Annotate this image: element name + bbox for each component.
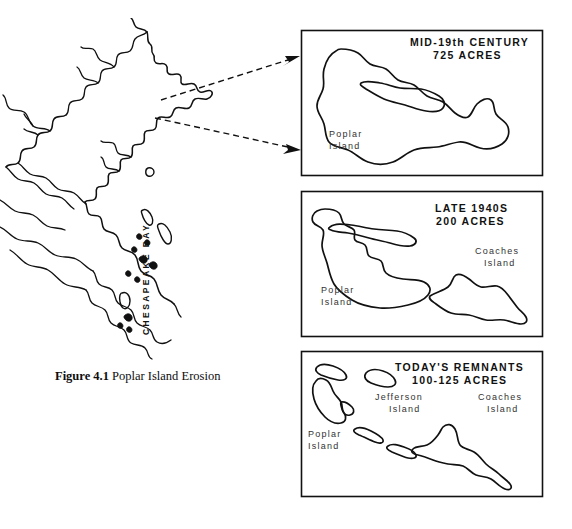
panel-3-jefferson-island-shape <box>365 370 396 387</box>
panel-1-frame <box>302 31 543 176</box>
figure-caption-label: Figure 4.1 <box>55 369 109 383</box>
callout-arrow-line-top <box>161 60 288 100</box>
choptank-river <box>77 67 98 83</box>
patuxent-river <box>24 129 38 135</box>
western-shore-coastline <box>131 18 147 32</box>
panel-3-label-poplar-line2: Island <box>308 441 340 451</box>
chesapeake-bay-label-group: CHESAPEAKE BAY <box>141 223 151 335</box>
southern-western-shore <box>93 271 171 343</box>
western-shore-main <box>6 115 66 167</box>
panel-3-poplar-island-shape <box>313 379 346 424</box>
panel-todays-remnants: TODAY'S REMNANTS 100-125 ACRES Poplar Is… <box>300 350 544 498</box>
callout-arrow-head-bottom <box>283 144 301 154</box>
panel-3-remnant-mid-sliver-1 <box>354 428 383 444</box>
panel-2-label-coaches-line1: Coaches <box>475 246 519 256</box>
panel-late-1940s: LATE 1940S 200 ACRES Poplar Island Coach… <box>300 190 544 338</box>
islet-dot-3 <box>132 247 138 253</box>
islet-dot-7 <box>135 277 141 283</box>
islet-dot-6 <box>126 271 132 277</box>
upper-eastern-tributaries <box>66 32 147 115</box>
panel-1-label-poplar-line2: Island <box>329 141 361 151</box>
callout-arrow-line-bottom <box>155 118 288 147</box>
potomac-branch <box>24 114 33 126</box>
panel-3-label-coaches-line2: Island <box>487 404 519 414</box>
james-south-bank <box>10 250 86 290</box>
lower-eastern-shore <box>85 202 174 304</box>
panel-mid-19th-century: MID-19th CENTURY 725 ACRES Poplar Island <box>300 29 544 177</box>
panel-3-label-jefferson-line1: Jefferson <box>375 392 423 402</box>
figure-caption-text: Poplar Island Erosion <box>112 369 220 383</box>
panel-3-label-poplar-line1: Poplar <box>308 429 342 439</box>
islet-dot-9 <box>118 323 124 329</box>
rappahannock-north-bank <box>6 167 74 209</box>
panel-3-poplar-east-lobe <box>341 402 354 415</box>
panel-3-title-line1: TODAY'S REMNANTS <box>395 361 524 373</box>
panel-3-label-jefferson-line2: Island <box>389 404 421 414</box>
panel-1-title-line1: MID-19th CENTURY <box>410 36 529 48</box>
panel-3-title-line2: 100-125 ACRES <box>412 374 507 386</box>
chester-river <box>81 47 114 67</box>
figure-caption: Figure 4.1 Poplar Island Erosion <box>55 367 265 386</box>
panel-1-label-poplar-line1: Poplar <box>329 129 363 139</box>
panel-2-label-coaches-line2: Island <box>484 258 516 268</box>
york-river <box>0 200 65 230</box>
panel-2-label-poplar-line2: Island <box>321 297 353 307</box>
rappahannock-river <box>18 163 86 204</box>
panel-2-label-poplar-line1: Poplar <box>321 285 355 295</box>
tangier-island <box>158 223 172 244</box>
eastern-bay-inlets <box>101 141 131 157</box>
panel-3-coaches-island-shape <box>412 425 511 490</box>
nanticoke-river <box>101 157 119 171</box>
eastern-barrier-spit <box>174 304 181 317</box>
panel-1-inner-lagoon <box>360 81 444 111</box>
panel-2-title-line1: LATE 1940S <box>435 202 508 214</box>
mid-bay-islet-1 <box>146 168 154 177</box>
islet-dot-10 <box>127 327 133 333</box>
islet-dot-8 <box>124 314 132 321</box>
chesapeake-bay-label: CHESAPEAKE BAY <box>141 223 151 335</box>
panel-2-title-line2: 200 ACRES <box>436 215 505 227</box>
potomac-river <box>3 95 50 131</box>
smith-island <box>141 209 152 225</box>
panel-2-poplar-upper-arm <box>329 224 416 246</box>
figure-poplar-island-erosion: CHESAPEAKE BAY MID-19th CENTURY 725 ACRE… <box>0 0 572 529</box>
james-river <box>0 227 93 271</box>
panel-2-coaches-island-shape <box>429 274 526 324</box>
panel-3-label-coaches-line1: Coaches <box>478 392 522 402</box>
callout-arrows <box>150 48 310 168</box>
panel-1-title-line2: 725 ACRES <box>433 49 502 61</box>
